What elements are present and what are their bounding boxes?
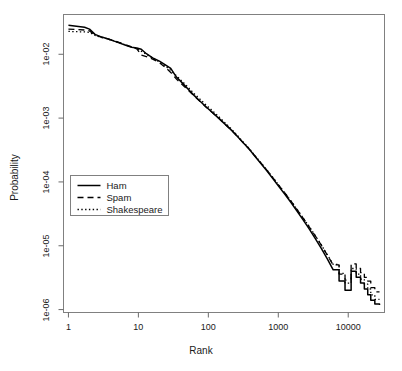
y-tick-label: 1e-06 bbox=[41, 298, 51, 321]
legend-label-ham: Ham bbox=[107, 180, 127, 191]
plot-frame bbox=[64, 15, 385, 313]
y-tick-label: 1e-05 bbox=[41, 234, 51, 257]
series-line-ham bbox=[68, 25, 379, 305]
y-tick-label: 1e-04 bbox=[41, 170, 51, 193]
legend-label-shakespeare: Shakespeare bbox=[107, 204, 163, 215]
chart-canvas bbox=[0, 0, 402, 371]
x-axis-label: Rank bbox=[0, 345, 402, 356]
series-line-spam bbox=[68, 29, 379, 292]
zipf-rank-probability-chart: Rank Probability 1101001000100001e-021e-… bbox=[0, 0, 402, 371]
series-line-shakespeare bbox=[68, 31, 379, 299]
x-tick-label: 100 bbox=[201, 322, 216, 332]
legend-label-spam: Spam bbox=[107, 192, 132, 203]
data-series-group bbox=[68, 25, 379, 305]
x-tick-label: 1000 bbox=[268, 322, 288, 332]
y-tick-label: 1e-02 bbox=[41, 43, 51, 66]
x-tick-label: 10 bbox=[133, 322, 143, 332]
y-tick-label: 1e-03 bbox=[41, 107, 51, 130]
x-tick-label: 10000 bbox=[336, 322, 361, 332]
y-axis-label: Probability bbox=[9, 138, 20, 218]
x-tick-label: 1 bbox=[66, 322, 71, 332]
